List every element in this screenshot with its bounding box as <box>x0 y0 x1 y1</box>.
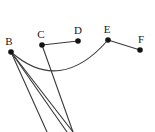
vertex-dot-c <box>39 42 45 48</box>
vertex-label-f: F <box>138 33 144 45</box>
vertex-dot-b <box>8 49 14 55</box>
vertex-dot-d <box>75 38 81 44</box>
vertex-dot-f <box>137 47 143 53</box>
geometry-canvas: B C D E F <box>0 0 155 132</box>
vertex-label-b: B <box>5 35 12 47</box>
vertex-label-c: C <box>37 28 44 40</box>
segment-ef <box>108 40 140 50</box>
vertex-label-e: E <box>104 23 111 35</box>
segment-cd <box>42 41 78 45</box>
vertex-label-d: D <box>74 24 82 36</box>
arc-b-to-e <box>11 40 108 71</box>
vertex-dot-e <box>105 37 111 43</box>
geometry-figure: B C D E F <box>0 0 155 132</box>
